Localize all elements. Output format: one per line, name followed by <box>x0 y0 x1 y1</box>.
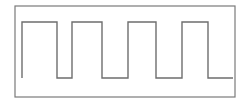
waveform-canvas <box>0 0 247 103</box>
border-rectangle <box>15 6 235 97</box>
square-wave-figure <box>0 0 247 103</box>
